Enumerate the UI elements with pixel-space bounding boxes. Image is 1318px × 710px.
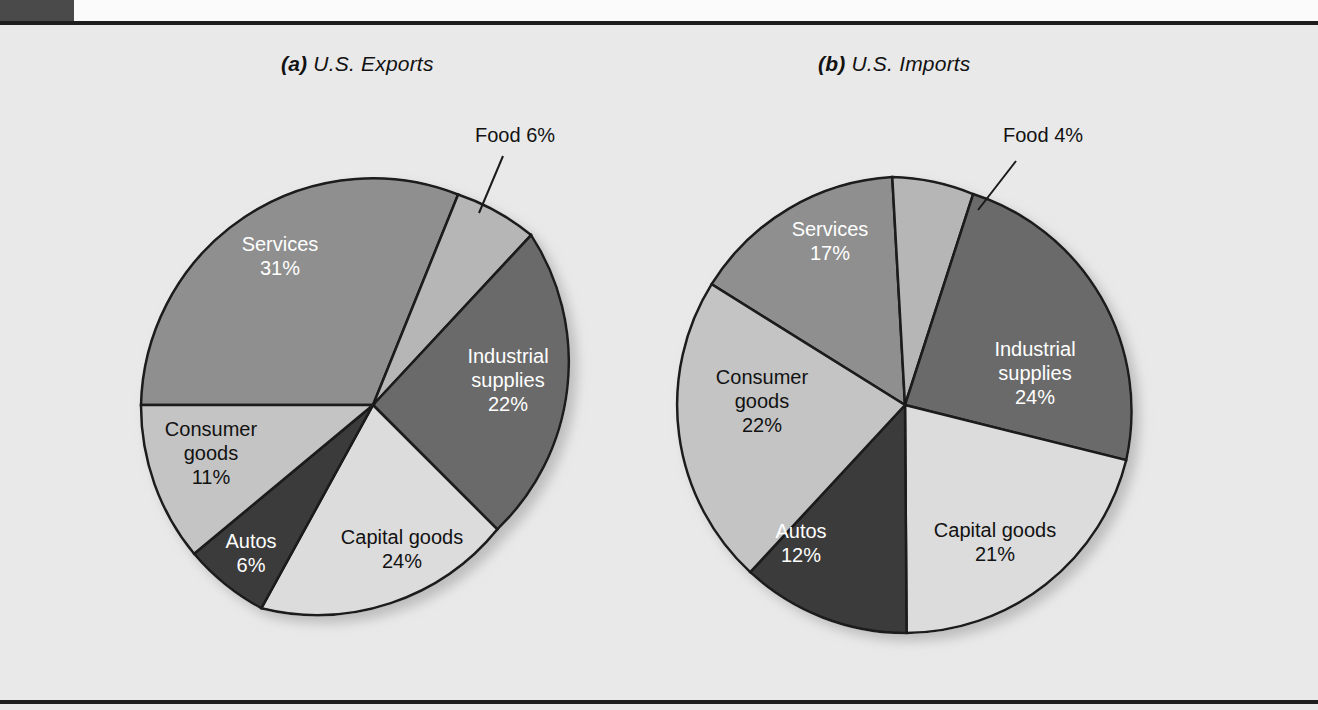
figure-canvas: (a) U.S. Exports (b) U.S. Imports [0,0,1318,710]
pie-imports-slices [677,177,1131,633]
pie-imports-svg [0,0,1318,710]
pie-chart-imports [0,0,1318,710]
callout-label-imports-food: Food 4% [1003,124,1083,147]
